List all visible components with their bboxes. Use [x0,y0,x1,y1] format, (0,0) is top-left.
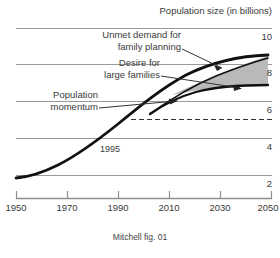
y-tick-label-8: 8 [267,67,272,78]
x-tick-label-1970: 1970 [56,202,77,213]
x-axis [16,191,272,199]
x-tick-label-1950: 1950 [5,202,26,213]
annotation-momentum-line1: Population [53,89,98,100]
annotation-unmet-demand-line1: Unmet demand for [102,29,181,40]
leader-unmet-demand [182,49,222,68]
annotation-desire-line1: Desire for [119,57,160,68]
y-tick-label-2: 2 [267,178,272,189]
annotation-year-1995: 1995 [100,144,120,154]
y-tick-label-10: 10 [261,31,272,42]
x-tick-label-2050: 2050 [257,202,278,213]
population-chart: Population size (in billions) 10 8 6 4 2… [0,0,280,258]
y-tick-label-6: 6 [267,104,272,115]
chart-title: Population size (in billions) [160,5,272,16]
y-tick-label-4: 4 [267,141,272,152]
figure-caption: Mitchell fig. 01 [113,232,168,242]
annotation-desire-line2: large families [104,69,160,80]
x-tick-label-2010: 2010 [158,202,179,213]
x-tick-label-2030: 2030 [209,202,230,213]
annotation-momentum-line2: momentum [50,101,98,112]
figure-container: Population size (in billions) 10 8 6 4 2… [0,0,280,258]
curve-population-momentum [150,85,268,114]
x-tick-label-1990: 1990 [107,202,128,213]
annotation-unmet-demand-line2: family planning [118,41,181,52]
